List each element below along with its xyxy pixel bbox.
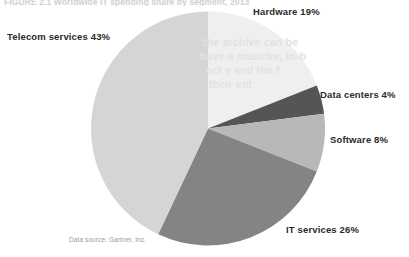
slice-label-telecom-services: Telecom services 43% <box>7 31 110 42</box>
data-source-note: Data source: Gartner, Inc. <box>69 236 146 243</box>
slice-label-hardware: Hardware 19% <box>253 6 320 17</box>
figure-container: FIGURE 2.1 Worldwide IT spending share b… <box>0 0 409 257</box>
pie-slice-group <box>91 12 325 246</box>
slice-label-it-services: IT services 26% <box>286 224 359 235</box>
slice-label-data-centers: Data centers 4% <box>320 89 396 100</box>
slice-label-software: Software 8% <box>330 134 388 145</box>
